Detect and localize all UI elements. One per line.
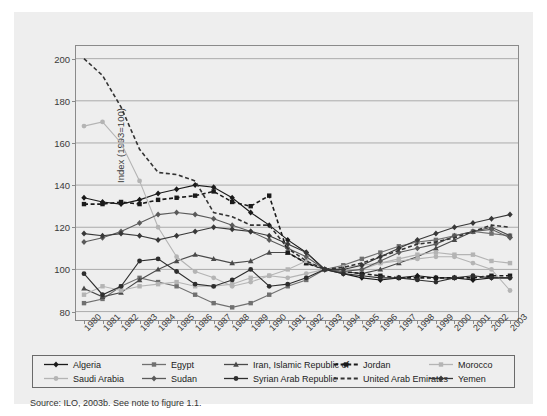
legend-swatch-circle-icon	[223, 373, 249, 384]
y-axis-tick-mark	[72, 227, 76, 228]
y-axis-tick-mark	[72, 143, 76, 144]
x-axis-tick-mark	[121, 320, 122, 324]
x-axis-tick-mark	[454, 320, 455, 324]
plot-area: Index (1993=100) 80100120140160180200198…	[75, 45, 519, 321]
legend-item[interactable]: Jordan	[333, 359, 391, 370]
chart-panel: Index (1993=100) 80100120140160180200198…	[14, 12, 533, 404]
y-axis-tick-label: 180	[54, 95, 70, 106]
legend-swatch-diamond-icon	[43, 359, 69, 370]
x-axis-tick-mark	[288, 320, 289, 324]
legend-swatch-square-icon	[428, 359, 454, 370]
x-axis-tick-mark	[362, 320, 363, 324]
chart-series	[81, 224, 513, 299]
x-axis-tick-mark	[103, 320, 104, 324]
x-axis-tick-mark	[399, 320, 400, 324]
y-axis-tick-label: 100	[54, 264, 70, 275]
x-axis-tick-mark	[417, 320, 418, 324]
x-axis-tick-mark	[195, 320, 196, 324]
chart-series	[81, 212, 512, 273]
source-note: Source: ILO, 2003b. See note to figure 1…	[30, 398, 202, 408]
page-header-faint	[0, 0, 547, 11]
legend-swatch-circle-icon	[43, 373, 69, 384]
x-axis-tick-mark	[269, 320, 270, 324]
plot-svg	[76, 46, 518, 320]
legend-label: Sudan	[171, 374, 197, 384]
x-axis-tick-mark	[380, 320, 381, 324]
legend-label: Jordan	[363, 360, 391, 370]
legend-label: Yemen	[458, 374, 486, 384]
x-axis-tick-mark	[306, 320, 307, 324]
y-axis-tick-mark	[72, 269, 76, 270]
figure-container: Index (1993=100) 80100120140160180200198…	[0, 0, 547, 416]
x-axis-tick-mark	[473, 320, 474, 324]
legend-swatch-square-icon	[333, 359, 359, 370]
legend-item[interactable]: Yemen	[428, 373, 486, 384]
chart-legend: AlgeriaEgyptIran, Islamic Republic ofJor…	[32, 355, 515, 388]
y-axis-tick-label: 140	[54, 180, 70, 191]
legend-label: Saudi Arabia	[73, 374, 124, 384]
legend-label: Morocco	[458, 360, 493, 370]
y-axis-tick-label: 200	[54, 53, 70, 64]
legend-item[interactable]: Syrian Arab Republic	[223, 373, 337, 384]
y-axis-tick-label: 80	[59, 306, 70, 317]
x-axis-tick-mark	[436, 320, 437, 324]
legend-swatch-none-icon	[333, 373, 359, 384]
legend-swatch-square-icon	[141, 359, 167, 370]
x-axis-tick-mark	[232, 320, 233, 324]
legend-swatch-diamond-icon	[141, 373, 167, 384]
legend-label: Algeria	[73, 360, 101, 370]
legend-item[interactable]: Morocco	[428, 359, 493, 370]
x-axis-tick-mark	[510, 320, 511, 324]
legend-item[interactable]: Algeria	[43, 359, 101, 370]
y-axis-tick-mark	[72, 59, 76, 60]
y-axis-tick-mark	[72, 185, 76, 186]
chart-series	[82, 189, 512, 280]
x-axis-tick-mark	[84, 320, 85, 324]
x-axis-tick-mark	[251, 320, 252, 324]
x-axis-tick-mark	[343, 320, 344, 324]
legend-label: Syrian Arab Republic	[253, 374, 337, 384]
legend-swatch-triangle-icon	[223, 359, 249, 370]
legend-swatch-diamond-icon	[428, 373, 454, 384]
x-axis-tick-mark	[140, 320, 141, 324]
x-axis-tick-mark	[158, 320, 159, 324]
legend-item[interactable]: Egypt	[141, 359, 194, 370]
y-axis-tick-label: 160	[54, 137, 70, 148]
x-axis-tick-mark	[177, 320, 178, 324]
x-axis-tick-mark	[325, 320, 326, 324]
legend-label: Egypt	[171, 360, 194, 370]
x-axis-tick-mark	[214, 320, 215, 324]
legend-item[interactable]: Iran, Islamic Republic of	[223, 359, 349, 370]
legend-item[interactable]: Sudan	[141, 373, 197, 384]
y-axis-tick-mark	[72, 101, 76, 102]
legend-item[interactable]: Saudi Arabia	[43, 373, 124, 384]
y-axis-tick-mark	[72, 312, 76, 313]
x-axis-tick-mark	[491, 320, 492, 324]
chart-series	[82, 119, 513, 292]
y-axis-tick-label: 120	[54, 222, 70, 233]
